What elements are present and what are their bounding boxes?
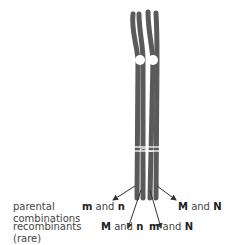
centromere-left [135,55,145,65]
centromere-right [148,55,158,65]
chromatids [133,12,157,198]
parental-outcome-mn: m and n [82,201,125,213]
recombinant-label: recombinants(rare) [13,221,81,245]
parental-outcome-MN: M and N [178,201,222,213]
recombinant-outcome-Mn: M and n [101,221,143,233]
recombinant-outcome-mN: m and N [149,221,193,233]
